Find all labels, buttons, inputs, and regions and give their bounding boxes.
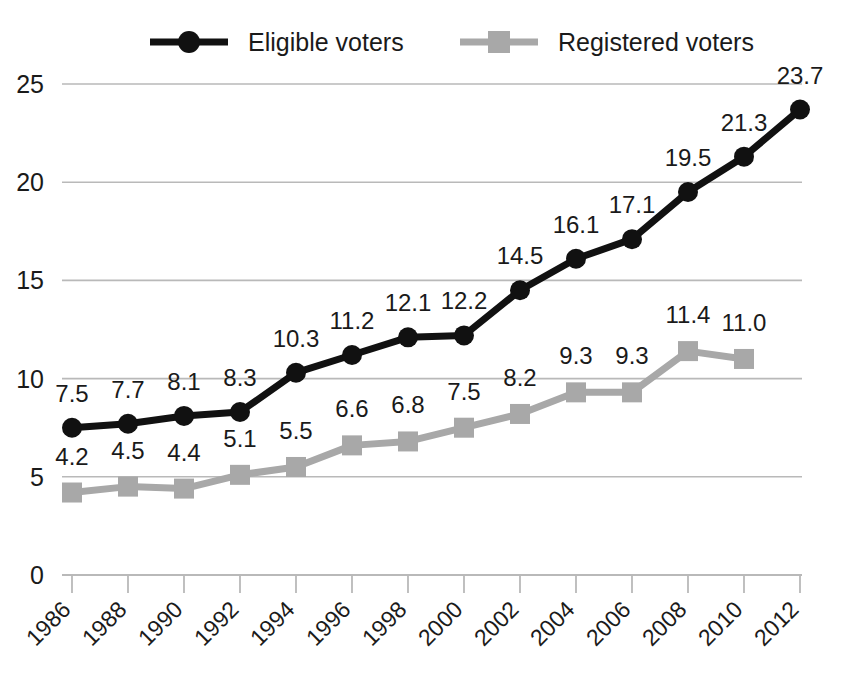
- legend-marker-square: [488, 31, 510, 53]
- y-tick-5: 5: [30, 463, 44, 491]
- data-label-1994-2: 5.5: [279, 417, 312, 444]
- line-chart: Eligible votersRegistered voters 0510152…: [0, 0, 844, 688]
- data-point-marker: [678, 182, 698, 202]
- data-label-1992-1: 8.3: [223, 364, 256, 391]
- data-label-2006-1: 17.1: [609, 191, 656, 218]
- data-point-marker: [342, 345, 362, 365]
- data-label-2002-2: 8.2: [503, 364, 536, 391]
- y-tick-10: 10: [16, 365, 44, 393]
- data-point-marker: [174, 479, 194, 499]
- chart-container: Eligible votersRegistered voters 0510152…: [0, 0, 844, 688]
- data-point-marker: [734, 147, 754, 167]
- data-point-marker: [286, 457, 306, 477]
- data-label-1990-2: 4.4: [167, 439, 200, 466]
- data-point-marker: [118, 414, 138, 434]
- data-point-marker: [398, 327, 418, 347]
- data-point-marker: [286, 363, 306, 383]
- legend-label-2: Registered voters: [558, 28, 754, 56]
- data-label-2010-1: 21.3: [721, 109, 768, 136]
- data-label-2000-2: 7.5: [447, 378, 480, 405]
- y-tick-15: 15: [16, 266, 44, 294]
- data-point-marker: [398, 431, 418, 451]
- data-label-2004-1: 16.1: [553, 211, 600, 238]
- data-point-marker: [118, 477, 138, 497]
- data-label-1992-2: 5.1: [223, 425, 256, 452]
- data-point-marker: [566, 249, 586, 269]
- data-point-marker: [62, 483, 82, 503]
- data-point-marker: [566, 382, 586, 402]
- data-label-2006-2: 9.3: [615, 342, 648, 369]
- data-label-2004-2: 9.3: [559, 342, 592, 369]
- data-point-marker: [174, 406, 194, 426]
- data-label-1996-2: 6.6: [335, 395, 368, 422]
- data-point-marker: [678, 341, 698, 361]
- data-label-2008-2: 11.4: [666, 301, 711, 328]
- data-label-2008-1: 19.5: [665, 144, 712, 171]
- data-point-marker: [734, 349, 754, 369]
- data-point-marker: [62, 418, 82, 438]
- data-label-1988-2: 4.5: [111, 437, 144, 464]
- chart-background: [0, 0, 844, 688]
- data-point-marker: [622, 382, 642, 402]
- y-tick-20: 20: [16, 168, 44, 196]
- data-point-marker: [342, 435, 362, 455]
- data-point-marker: [230, 465, 250, 485]
- data-point-marker: [790, 100, 810, 120]
- data-label-1996-1: 11.2: [330, 307, 375, 334]
- data-label-2010-2: 11.0: [722, 309, 767, 336]
- legend-label-1: Eligible voters: [248, 28, 404, 56]
- data-point-marker: [230, 402, 250, 422]
- data-point-marker: [510, 404, 530, 424]
- data-point-marker: [622, 229, 642, 249]
- legend-marker-circle: [178, 31, 200, 53]
- data-label-1990-1: 8.1: [167, 368, 200, 395]
- data-label-1986-1: 7.5: [55, 380, 88, 407]
- data-label-1986-2: 4.2: [55, 443, 88, 470]
- data-point-marker: [454, 325, 474, 345]
- y-tick-25: 25: [16, 70, 44, 98]
- data-label-1988-1: 7.7: [111, 376, 144, 403]
- data-label-2002-1: 14.5: [497, 242, 544, 269]
- data-label-1998-2: 6.8: [391, 391, 424, 418]
- data-label-1998-1: 12.1: [385, 289, 432, 316]
- data-label-2000-1: 12.2: [441, 287, 488, 314]
- y-tick-0: 0: [30, 561, 44, 589]
- data-point-marker: [510, 280, 530, 300]
- data-point-marker: [454, 418, 474, 438]
- data-label-2012-1: 23.7: [777, 62, 824, 89]
- data-label-1994-1: 10.3: [273, 325, 320, 352]
